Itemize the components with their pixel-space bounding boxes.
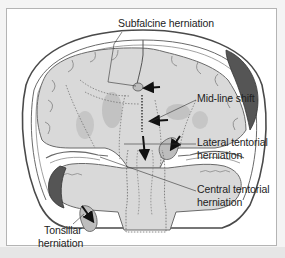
label-tonsillar-1: Tonsillar bbox=[44, 224, 82, 237]
label-lateral-tentorial-1: Lateral tentorial bbox=[197, 136, 268, 149]
label-tonsillar-2: herniation bbox=[38, 237, 83, 250]
cingulate-herniation bbox=[133, 83, 143, 91]
ventricle-right bbox=[166, 104, 190, 120]
label-midline-shift: Mid-line shift bbox=[197, 92, 255, 105]
herniation-diagram bbox=[0, 0, 285, 258]
subfalcine-arrow-icon bbox=[146, 87, 160, 88]
thalamus-left bbox=[76, 111, 94, 139]
label-lateral-tentorial-2: herniation bbox=[197, 149, 242, 162]
label-subfalcine-herniation: Subfalcine herniation bbox=[118, 17, 214, 30]
label-central-tentorial-1: Central tentorial bbox=[197, 183, 269, 196]
ventricle-left bbox=[102, 92, 122, 128]
thalamus-right bbox=[192, 111, 208, 129]
label-central-tentorial-2: herniation bbox=[197, 196, 242, 209]
